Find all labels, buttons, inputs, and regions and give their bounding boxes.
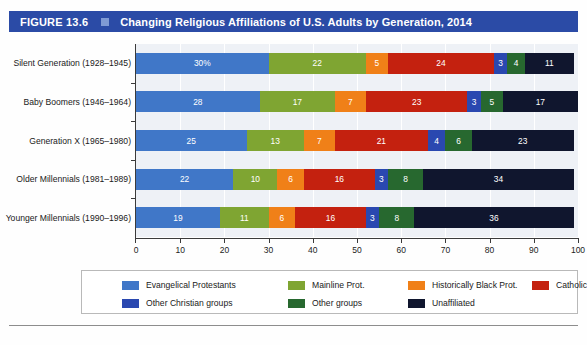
legend-label: Evangelical Protestants: [146, 280, 236, 290]
legend-item[interactable]: Historically Black Prot.: [408, 280, 517, 290]
bar-segment: 23: [472, 130, 574, 151]
y-axis-tick: [131, 121, 136, 122]
bar-segment: 5: [366, 53, 388, 74]
bar-segment: 13: [247, 130, 304, 151]
category-axis-labels: Silent Generation (1928–1945)Baby Boomer…: [0, 44, 131, 237]
figure-header: FIGURE 13.6 Changing Religious Affiliati…: [9, 11, 578, 32]
legend-swatch: [288, 299, 305, 308]
x-axis-tick: [401, 239, 402, 243]
legend-label: Unaffiliated: [432, 298, 475, 308]
chart-legend: Evangelical ProtestantsMainline Prot.His…: [81, 270, 578, 314]
x-axis-tick: [224, 239, 225, 243]
bar-segment: 21: [335, 130, 428, 151]
x-axis-tick: [269, 239, 270, 243]
stacked-bar: 19116163836: [136, 207, 574, 228]
bar-segment: 6: [277, 169, 304, 190]
x-axis-tick-label: 30: [264, 245, 273, 255]
x-axis-tick: [357, 239, 358, 243]
category-label: Older Millennials (1981–1989): [1, 174, 131, 184]
bar-segment: 5: [481, 91, 503, 112]
figure-number: FIGURE 13.6: [20, 16, 88, 28]
legend-item[interactable]: Catholic: [532, 280, 587, 290]
legend-item[interactable]: Unaffiliated: [408, 298, 475, 308]
x-axis-tick-label: 80: [485, 245, 494, 255]
legend-swatch: [122, 281, 139, 290]
figure-separator-square: [101, 18, 109, 26]
bar-segment: 4: [507, 53, 525, 74]
bar-segment: 34: [423, 169, 573, 190]
legend-swatch: [288, 281, 305, 290]
x-axis-tick-label: 20: [220, 245, 229, 255]
legend-label: Other groups: [312, 298, 362, 308]
bar-segment: 16: [295, 207, 366, 228]
bar-segment: 7: [304, 130, 335, 151]
bar-segment: 22: [269, 53, 366, 74]
bar-segment: 8: [388, 169, 423, 190]
bar-segment: 28: [136, 91, 260, 112]
category-label: Generation X (1965–1980): [1, 136, 131, 146]
y-axis-tick: [131, 83, 136, 84]
legend-swatch: [532, 281, 549, 290]
legend-swatch: [408, 299, 425, 308]
bar-segment: 36: [414, 207, 573, 228]
legend-item[interactable]: Mainline Prot.: [288, 280, 365, 290]
x-axis-tick: [313, 239, 314, 243]
bar-segment: 3: [467, 91, 480, 112]
legend-label: Catholic: [556, 280, 587, 290]
legend-item[interactable]: Other groups: [288, 298, 362, 308]
x-axis-tick-label: 90: [529, 245, 538, 255]
bar-segment: 19: [136, 207, 220, 228]
legend-item[interactable]: Other Christian groups: [122, 298, 232, 308]
x-axis-tick-label: 40: [308, 245, 317, 255]
x-axis-tick-label: 50: [352, 245, 361, 255]
category-label: Younger Millennials (1990–1996): [1, 213, 131, 223]
x-axis-tick-label: 0: [134, 245, 139, 255]
stacked-bar: 25137214623: [136, 130, 574, 151]
x-axis-tick-label: 100: [571, 245, 585, 255]
bar-segment: 8: [379, 207, 414, 228]
bar-segment: 24: [388, 53, 494, 74]
figure-title: Changing Religious Affiliations of U.S. …: [120, 16, 472, 28]
stacked-bar: 30%225243411: [136, 53, 574, 74]
x-axis-tick-label: 70: [441, 245, 450, 255]
bar-segment: 23: [366, 91, 468, 112]
bar-segment: 6: [269, 207, 296, 228]
bar-segment: 3: [494, 53, 507, 74]
category-label: Baby Boomers (1946–1964): [1, 97, 131, 107]
legend-item[interactable]: Evangelical Protestants: [122, 280, 236, 290]
bar-segment: 30%: [136, 53, 269, 74]
x-axis-tick-label: 10: [175, 245, 184, 255]
legend-label: Mainline Prot.: [312, 280, 365, 290]
footer-divider: [9, 325, 578, 326]
figure-container: FIGURE 13.6 Changing Religious Affiliati…: [0, 0, 587, 345]
legend-swatch: [122, 299, 139, 308]
bar-segment: 22: [136, 169, 233, 190]
x-axis-tick-label: 60: [396, 245, 405, 255]
legend-label: Historically Black Prot.: [432, 280, 517, 290]
y-axis-tick: [131, 160, 136, 161]
bar-segment: 3: [375, 169, 388, 190]
bar-segment: 6: [445, 130, 472, 151]
bar-segment: 17: [503, 91, 578, 112]
x-axis-tick: [180, 239, 181, 243]
x-axis-tick: [135, 239, 136, 243]
category-label: Silent Generation (1928–1945): [1, 58, 131, 68]
legend-row-top: Evangelical ProtestantsMainline Prot.His…: [82, 278, 577, 292]
legend-swatch: [408, 281, 425, 290]
bar-segment: 11: [525, 53, 574, 74]
legend-label: Other Christian groups: [146, 298, 232, 308]
bar-segment: 10: [233, 169, 277, 190]
bar-segment: 11: [220, 207, 269, 228]
gridline: [578, 44, 579, 237]
bar-segment: 17: [260, 91, 335, 112]
x-axis-tick: [578, 239, 579, 243]
bar-segment: 4: [428, 130, 446, 151]
bar-segment: 25: [136, 130, 247, 151]
y-axis-tick: [131, 198, 136, 199]
stacked-bar: 28177233517: [136, 91, 578, 112]
x-axis-tick: [445, 239, 446, 243]
bar-segment: 7: [335, 91, 366, 112]
stacked-bar: 22106163834: [136, 169, 574, 190]
x-axis-tick: [534, 239, 535, 243]
bar-segment: 16: [304, 169, 375, 190]
